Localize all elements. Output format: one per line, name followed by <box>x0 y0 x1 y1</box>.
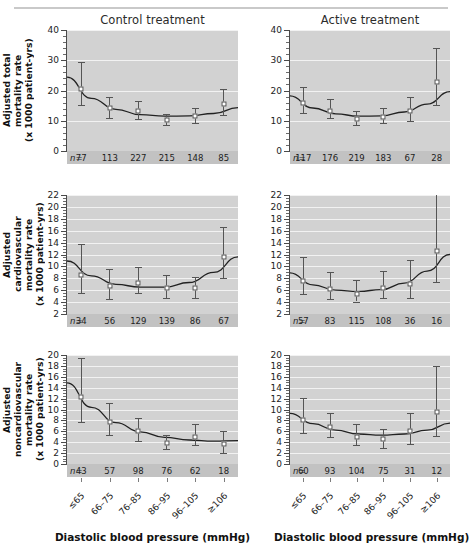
data-point-marker[interactable] <box>136 428 141 433</box>
y-tick-minor <box>286 456 289 457</box>
x-tick <box>330 478 331 482</box>
y-tick-minor <box>286 257 289 258</box>
y-tick-label: 0 <box>260 146 282 156</box>
y-tick-minor <box>286 305 289 306</box>
y-tick-minor <box>63 42 66 43</box>
x-tick <box>81 478 82 482</box>
data-point-marker[interactable] <box>79 394 84 399</box>
y-tick-major <box>61 431 66 432</box>
x-tick <box>357 478 358 482</box>
y-tick-label: 10 <box>260 261 282 271</box>
y-tick-minor <box>286 66 289 67</box>
data-point-marker[interactable] <box>164 441 169 446</box>
y-tick-label: 16 <box>260 372 282 382</box>
data-point-marker[interactable] <box>381 114 386 119</box>
y-tick-minor <box>63 434 66 435</box>
y-tick-major <box>284 231 289 232</box>
data-point-marker[interactable] <box>79 272 84 277</box>
data-point-marker[interactable] <box>408 109 413 114</box>
n-count-value: 86 <box>190 316 201 326</box>
data-point-marker[interactable] <box>328 287 333 292</box>
data-point-marker[interactable] <box>107 420 112 425</box>
error-bar-cap-bottom <box>163 449 170 450</box>
n-count-band <box>67 314 238 327</box>
error-bar-cap-top <box>106 403 113 404</box>
n-equals-label: n= <box>293 466 306 476</box>
y-tick-major <box>61 420 66 421</box>
n-equals-label: n= <box>293 153 306 163</box>
data-point-marker[interactable] <box>136 108 141 113</box>
y-tick-minor <box>286 252 289 253</box>
y-tick-minor <box>63 103 66 104</box>
data-point-marker[interactable] <box>107 105 112 110</box>
y-tick-minor <box>63 115 66 116</box>
error-bar-cap-top <box>78 358 85 359</box>
y-tick-minor <box>286 418 289 419</box>
data-point-marker[interactable] <box>381 285 386 290</box>
data-point-marker[interactable] <box>193 113 198 118</box>
panel-control-row1: 7711322721514885n=010203040 <box>67 30 238 164</box>
y-tick-label: 2 <box>37 309 59 319</box>
y-tick-minor <box>286 407 289 408</box>
data-point-marker[interactable] <box>434 248 439 253</box>
y-tick-minor <box>286 222 289 223</box>
y-tick-minor <box>286 234 289 235</box>
n-count-value: 148 <box>187 153 203 163</box>
data-point-marker[interactable] <box>107 284 112 289</box>
data-point-marker[interactable] <box>381 437 386 442</box>
y-tick-minor <box>63 396 66 397</box>
y-tick-label: 0 <box>37 146 59 156</box>
data-point-marker[interactable] <box>354 291 359 296</box>
y-tick-minor <box>63 36 66 37</box>
y-tick-minor <box>286 308 289 309</box>
y-tick-minor <box>286 145 289 146</box>
n-count-value: 215 <box>159 153 175 163</box>
n-count-value: 115 <box>349 316 365 326</box>
error-bar-cap-bottom <box>192 123 199 124</box>
data-point-marker[interactable] <box>164 285 169 290</box>
data-point-marker[interactable] <box>301 278 306 283</box>
data-point-marker[interactable] <box>354 116 359 121</box>
y-tick-label: 6 <box>260 426 282 436</box>
y-tick-label: 20 <box>260 86 282 96</box>
y-tick-major <box>61 278 66 279</box>
error-bar-cap-bottom <box>407 298 414 299</box>
data-point-marker[interactable] <box>221 255 226 260</box>
y-tick-minor <box>63 415 66 416</box>
plot-area <box>290 195 450 327</box>
y-tick-minor <box>286 263 289 264</box>
data-point-marker[interactable] <box>301 417 306 422</box>
y-tick-minor <box>286 201 289 202</box>
data-point-marker[interactable] <box>434 80 439 85</box>
y-tick-minor <box>63 363 66 364</box>
data-point-marker[interactable] <box>164 118 169 123</box>
data-point-marker[interactable] <box>136 281 141 286</box>
y-tick-minor <box>286 54 289 55</box>
error-bar-cap-top <box>327 272 334 273</box>
y-tick-major <box>284 30 289 31</box>
data-point-marker[interactable] <box>354 435 359 440</box>
data-point-marker[interactable] <box>193 434 198 439</box>
data-point-marker[interactable] <box>301 100 306 105</box>
y-tick-minor <box>286 84 289 85</box>
plot-area <box>67 355 238 477</box>
data-point-marker[interactable] <box>221 441 226 446</box>
data-point-marker[interactable] <box>79 87 84 92</box>
error-bar-cap-top <box>163 435 170 436</box>
y-tick-major <box>284 420 289 421</box>
data-point-marker[interactable] <box>408 429 413 434</box>
y-tick-label: 30 <box>37 55 59 65</box>
y-tick-minor <box>63 299 66 300</box>
y-tick-major <box>61 314 66 315</box>
error-bar-cap-top <box>327 99 334 100</box>
y-tick-major <box>61 231 66 232</box>
data-point-marker[interactable] <box>408 281 413 286</box>
data-point-marker[interactable] <box>328 109 333 114</box>
y-tick-minor <box>63 423 66 424</box>
data-point-marker[interactable] <box>434 409 439 414</box>
data-point-marker[interactable] <box>193 286 198 291</box>
data-point-marker[interactable] <box>221 102 226 107</box>
data-point-marker[interactable] <box>328 424 333 429</box>
y-tick-label: 14 <box>260 238 282 248</box>
n-count-value: 93 <box>325 466 336 476</box>
